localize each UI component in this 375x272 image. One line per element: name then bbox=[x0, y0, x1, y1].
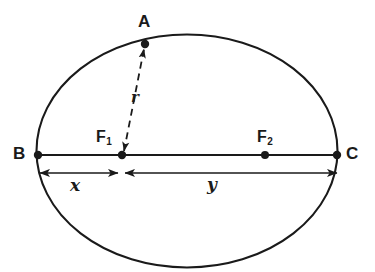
label-focus-1-subscript: 1 bbox=[106, 136, 112, 147]
point-c-marker bbox=[333, 151, 341, 159]
point-f2-marker bbox=[261, 151, 269, 159]
label-dimension-x: x bbox=[70, 177, 80, 194]
label-vertex-a: A bbox=[138, 13, 150, 30]
point-a-marker bbox=[141, 40, 149, 48]
point-b-marker bbox=[34, 151, 42, 159]
label-focus-2-subscript: 2 bbox=[267, 136, 273, 147]
point-f1-marker bbox=[118, 151, 126, 159]
label-focus-2: F2 bbox=[257, 129, 273, 147]
label-focus-1-letter: F bbox=[96, 128, 106, 145]
ellipse-outline bbox=[37, 35, 338, 268]
diagram-canvas bbox=[0, 0, 375, 272]
ellipse-diagram-figure: A B C F1 F2 r x y bbox=[0, 0, 375, 272]
label-radius-r: r bbox=[131, 90, 139, 105]
label-dimension-y: y bbox=[207, 176, 217, 193]
label-vertex-c: C bbox=[346, 145, 358, 162]
label-focus-2-letter: F bbox=[257, 128, 267, 145]
label-focus-1: F1 bbox=[96, 129, 112, 147]
label-vertex-b: B bbox=[13, 145, 25, 162]
